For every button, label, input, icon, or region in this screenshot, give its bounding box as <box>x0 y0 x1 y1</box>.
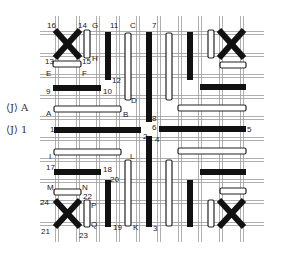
point-label: 10 <box>103 88 112 96</box>
white-bar <box>178 148 246 154</box>
point-label: P <box>91 202 96 210</box>
black-bar <box>200 84 246 90</box>
white-bar <box>54 106 121 112</box>
white-bar <box>125 33 131 100</box>
point-label: 21 <box>41 228 50 236</box>
point-label: 16 <box>47 22 56 30</box>
point-label: 23 <box>79 232 88 240</box>
point-label: 12 <box>112 77 121 85</box>
point-label: 22 <box>83 193 92 201</box>
white-bar <box>54 189 81 195</box>
black-bar <box>54 169 101 175</box>
point-label: 1 <box>50 126 54 134</box>
point-label: K <box>133 224 138 232</box>
point-label: 2 <box>143 133 147 141</box>
point-label: 11 <box>110 22 118 30</box>
point-label: H <box>92 55 98 63</box>
side-label-ja: ⟨J⟩ A <box>6 103 28 113</box>
white-bar <box>208 200 214 227</box>
side-label-j1: ⟨J⟩ 1 <box>6 125 27 135</box>
white-bar <box>166 160 172 226</box>
point-label: 9 <box>46 88 50 96</box>
point-label: B <box>123 111 128 119</box>
point-label: M <box>47 184 54 192</box>
black-bar <box>54 127 141 133</box>
black-bar <box>146 32 152 122</box>
white-bar <box>54 149 121 155</box>
black-bar <box>146 136 152 227</box>
grid-canvas <box>0 0 283 257</box>
point-label: 14 <box>78 22 87 30</box>
point-label: 18 <box>103 166 112 174</box>
white-bar <box>84 200 90 227</box>
point-label: A <box>46 110 51 118</box>
point-label: I <box>49 153 51 161</box>
point-label: E <box>46 70 51 78</box>
white-bar <box>84 30 90 58</box>
point-label: 4 <box>155 136 159 144</box>
point-label: 3 <box>153 225 157 233</box>
point-label: 24 <box>40 199 49 207</box>
white-bar <box>208 30 214 58</box>
white-bar <box>220 62 246 68</box>
bar-grid-diagram: 1614G11C71315HEF12910DAB865124I1718L20MN… <box>0 0 283 257</box>
black-bar <box>105 180 111 227</box>
point-label: G <box>92 22 98 30</box>
point-label: C <box>130 22 136 30</box>
black-bar <box>200 169 246 175</box>
point-label: 13 <box>45 58 54 66</box>
black-bar <box>159 126 246 132</box>
point-label: L <box>130 153 134 161</box>
point-label: 7 <box>152 22 156 30</box>
point-label: 6 <box>152 124 156 132</box>
black-bar <box>187 32 193 80</box>
point-label: 5 <box>247 126 251 134</box>
white-bar <box>166 33 172 100</box>
white-bar <box>53 61 81 67</box>
white-bar <box>125 160 131 226</box>
point-label: N <box>82 184 88 192</box>
white-bar <box>220 188 246 194</box>
point-label: F <box>82 70 87 78</box>
white-bar <box>178 105 246 111</box>
point-label: Q <box>91 221 97 229</box>
point-label: 8 <box>152 115 156 123</box>
point-label: 17 <box>46 164 55 172</box>
point-label: 20 <box>110 176 119 184</box>
point-label: 15 <box>82 58 91 66</box>
point-label: 19 <box>113 224 122 232</box>
black-bar <box>105 32 111 80</box>
point-label: D <box>131 97 137 105</box>
black-bar <box>53 85 101 91</box>
black-bar <box>187 180 193 227</box>
